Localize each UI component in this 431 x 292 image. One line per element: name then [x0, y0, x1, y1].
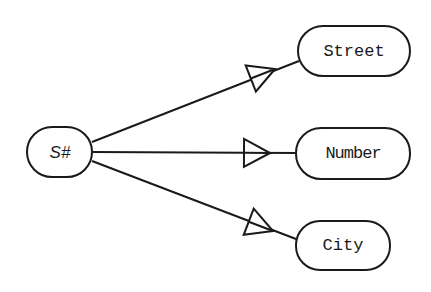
node-source[interactable]: S# — [27, 127, 92, 177]
nodes-layer: S# Street Number City — [27, 26, 410, 270]
node-city[interactable]: City — [296, 221, 390, 270]
arrowhead-icon — [244, 209, 273, 235]
dependency-diagram: S# Street Number City — [0, 0, 431, 292]
arrowhead-icon — [246, 65, 275, 91]
node-number[interactable]: Number — [296, 128, 410, 179]
edge-s-to-street[interactable] — [92, 61, 299, 142]
node-city-label: City — [323, 236, 364, 255]
node-street[interactable]: Street — [298, 26, 410, 76]
edge-s-to-number[interactable] — [93, 139, 296, 167]
node-number-label: Number — [325, 144, 380, 163]
node-street-label: Street — [323, 42, 384, 61]
node-source-label: S# — [50, 143, 71, 162]
edges-layer — [92, 61, 299, 239]
edge-s-to-city[interactable] — [92, 161, 296, 239]
